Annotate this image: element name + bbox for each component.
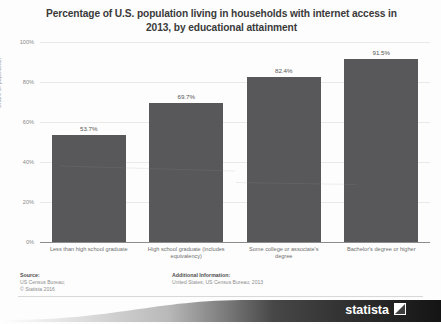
bar[interactable] (247, 77, 321, 242)
bar[interactable] (52, 135, 126, 242)
bar-group: 53.7% (52, 42, 126, 242)
x-axis-category-label: Bachelor's degree or higher (337, 246, 425, 253)
bar-value-label: 69.7% (149, 93, 223, 100)
source-line: © Statista 2016 (20, 286, 150, 293)
x-axis-category-label: Less than high school graduate (45, 246, 133, 253)
bar-group: 69.7% (149, 42, 223, 242)
bar-value-label: 82.4% (247, 67, 321, 74)
y-axis-tick-label: 60% (23, 119, 34, 125)
bar[interactable] (344, 59, 418, 242)
y-axis-ticks: 0%20%40%60%80%100% (0, 0, 38, 284)
source-heading: Source: (20, 272, 150, 279)
y-axis-tick-label: 40% (23, 159, 34, 165)
source-line: US Census Bureau; (20, 279, 150, 286)
y-axis-tick-label: 80% (23, 79, 34, 85)
bar-value-label: 91.5% (344, 49, 418, 56)
additional-information-block: Additional Information: United States; U… (172, 272, 342, 286)
statista-logo: statista (0, 298, 441, 324)
y-axis-tick-label: 0% (26, 239, 34, 245)
logo-wordmark: statista (345, 303, 390, 317)
additional-information-line: United States; US Census Bureau; 2013 (172, 279, 342, 286)
x-axis-category-label: High school graduate (includes equivalen… (142, 246, 230, 261)
bar[interactable] (149, 103, 223, 242)
footer-divider (18, 296, 423, 297)
bar-group: 82.4% (247, 42, 321, 242)
bar-value-label: 53.7% (52, 125, 126, 132)
y-axis-tick-label: 20% (23, 199, 34, 205)
statista-logo-bar: statista (0, 298, 441, 324)
y-axis-tick-label: 100% (20, 39, 34, 45)
statista-chart-card: Percentage of U.S. population living in … (0, 0, 441, 324)
source-block: Source: US Census Bureau; © Statista 201… (20, 272, 150, 292)
x-axis-category-labels: Less than high school graduateHigh schoo… (40, 246, 430, 272)
page-title: Percentage of U.S. population living in … (34, 7, 409, 35)
bar-group: 91.5% (344, 42, 418, 242)
additional-information-heading: Additional Information: (172, 272, 342, 279)
bars-layer: 53.7%69.7%82.4%91.5% (40, 42, 430, 242)
x-axis-category-label: Some college or associate's degree (240, 246, 328, 261)
x-axis-line (40, 242, 430, 243)
